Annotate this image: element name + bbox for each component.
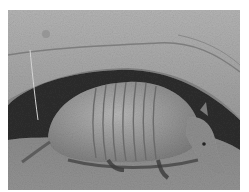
- armadillo-photo: armadillo: [8, 10, 240, 190]
- photo-canvas: [8, 10, 240, 190]
- armadillo-eye: [202, 142, 206, 146]
